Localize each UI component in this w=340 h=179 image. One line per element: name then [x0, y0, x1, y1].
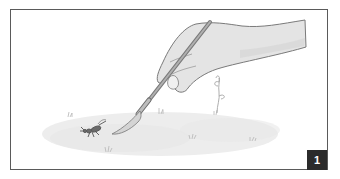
- hand-illustration: [157, 20, 306, 92]
- sprout-icon: [215, 76, 225, 113]
- grass-ground: [42, 112, 280, 156]
- illustration-scene: [0, 0, 340, 179]
- step-number-badge: 1: [307, 150, 327, 170]
